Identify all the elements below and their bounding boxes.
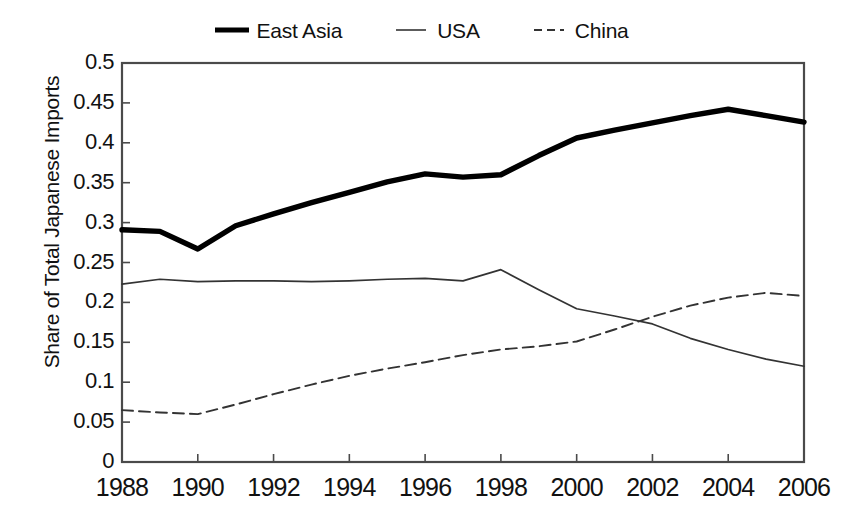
series-line-usa bbox=[122, 270, 804, 367]
chart-figure: East Asia USA China Share of Total Japan… bbox=[0, 0, 844, 525]
series-line-east-asia bbox=[122, 109, 804, 249]
plot-frame bbox=[122, 63, 804, 462]
series-line-china bbox=[122, 293, 804, 414]
plot-area bbox=[0, 0, 844, 525]
